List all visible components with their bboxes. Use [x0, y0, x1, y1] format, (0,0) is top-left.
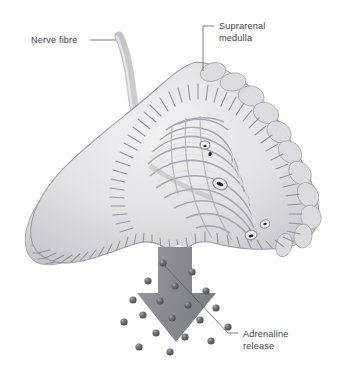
suprarenal-gland-illustration: Nerve fibre Suprarenal medulla Adrenalin…: [0, 0, 360, 371]
gland-body: [31, 59, 324, 262]
label-adrenaline-release-line1: Adrenaline: [243, 329, 288, 339]
label-nerve-fibre[interactable]: Nerve fibre: [31, 35, 116, 45]
label-suprarenal-medulla-line1: Suprarenal: [219, 21, 265, 31]
adrenaline-release-arrow: [137, 247, 216, 342]
label-suprarenal-medulla-line2: medulla: [219, 33, 253, 43]
label-nerve-fibre-text: Nerve fibre: [31, 35, 78, 45]
figure-root: Nerve fibre Suprarenal medulla Adrenalin…: [0, 0, 360, 371]
label-adrenaline-release-line2: release: [243, 341, 274, 351]
